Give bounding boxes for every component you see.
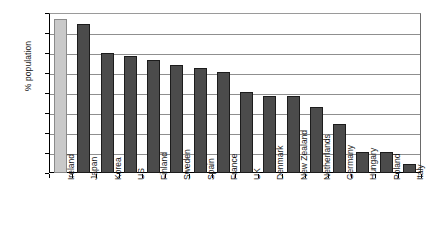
x-axis-category-label-text: Denmark xyxy=(274,146,287,180)
x-axis-category-label-text: Italy xyxy=(414,164,427,180)
x-axis-category-label-text: Netherlands xyxy=(321,134,334,180)
x-axis-category-label-text: Spain xyxy=(205,158,218,180)
bar-series xyxy=(49,13,421,173)
x-axis-category-label-text: Poland xyxy=(391,154,404,180)
x-axis-category-label-text: Finland xyxy=(158,152,171,180)
bar xyxy=(54,19,67,173)
x-axis-category-label-text: US xyxy=(135,168,148,180)
x-axis-category-label-text: France xyxy=(228,154,241,180)
x-axis-category-label-text: Ireland xyxy=(65,154,78,180)
x-axis-category-label-text: Germany xyxy=(344,145,357,180)
bar xyxy=(101,53,114,173)
x-axis-tick-mark xyxy=(49,174,50,178)
x-axis-category-label-text: UK xyxy=(251,168,264,180)
y-axis-title: % population xyxy=(19,16,37,116)
bar xyxy=(77,24,90,173)
bar-chart: % population 504540353025201510 IrelandJ… xyxy=(0,0,439,241)
x-axis-category-label-text: Hungary xyxy=(367,148,380,180)
bar xyxy=(124,56,137,173)
bar xyxy=(194,68,207,173)
x-axis-category-label-text: Japan xyxy=(88,157,101,180)
x-axis-category-label-text: Sweden xyxy=(181,149,194,180)
x-axis-category-label-text: New Zealand xyxy=(298,130,311,180)
x-axis-category-label-text: Korea xyxy=(112,157,125,180)
bar xyxy=(240,92,253,173)
